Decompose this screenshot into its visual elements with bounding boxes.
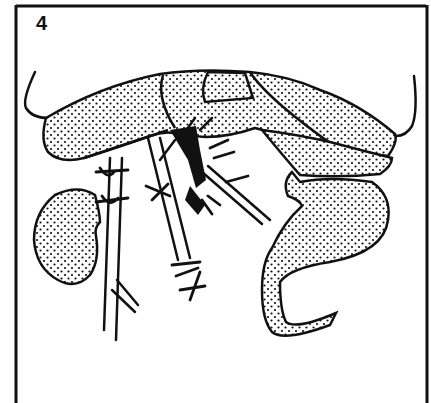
illustration-canvas [0,0,431,403]
anatomical-illustration: 4 [0,0,431,403]
panel-number-label: 4 [36,12,47,35]
left-vessel [104,158,110,330]
kidney [34,190,100,285]
bowel-loop [262,172,389,336]
